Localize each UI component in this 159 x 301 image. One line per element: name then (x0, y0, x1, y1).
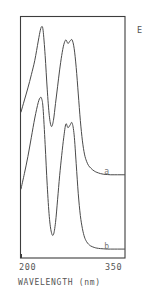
spectrum-curve-a (21, 26, 125, 174)
spectrum-plot (0, 0, 159, 301)
x-axis-tick-label-min: 200 (19, 263, 36, 272)
curve-label-b: b (104, 243, 109, 251)
x-axis-title: WAVELENGTH (nm) (18, 279, 101, 287)
curve-label-a: a (104, 168, 109, 176)
uv-spectrum-figure: 200 350 WAVELENGTH (nm) E a b (0, 0, 159, 301)
x-axis-tick-label-max: 350 (105, 263, 122, 272)
y-axis-title: E (137, 26, 143, 35)
